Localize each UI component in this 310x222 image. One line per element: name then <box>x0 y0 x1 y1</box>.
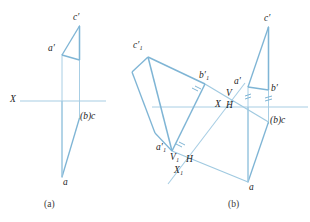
panel-b-label-axis-v1-text: V₁ <box>170 152 179 162</box>
panel-b-label-b1-prime: b′₁ <box>199 71 209 81</box>
panel-b-front-edge-ab <box>248 87 269 90</box>
panel-b-label-a-prime: a′ <box>234 77 241 87</box>
panel-b-label-a: a <box>249 183 254 193</box>
panel-a-label-bc: (b)c <box>80 112 95 122</box>
panel-b-label-bc: (b)c <box>270 116 285 126</box>
panel-b-label-axis-x1: X₁ <box>174 166 183 176</box>
panel-b-caption: (b) <box>228 200 239 210</box>
panel-a-geometry <box>20 25 106 178</box>
panel-b-label-c1-prime-text: c′₁ <box>133 40 143 50</box>
panel-b-label-a1-prime: a′₁ <box>156 143 166 153</box>
panel-b-aux-edge-a1b1 <box>172 84 205 151</box>
figure-canvas <box>0 0 310 222</box>
panel-b-label-c-prime: c′ <box>264 14 270 24</box>
panel-a-top-edge-a-bc <box>62 118 80 177</box>
panel-b-front-edge-ac <box>248 27 269 87</box>
descriptive-geometry-figure: c′ a′ X (b)c a (a) c′₁ b′₁ a′₁ c′ a′ b′ … <box>0 0 310 222</box>
panel-a-label-a-prime: a′ <box>48 44 55 54</box>
panel-b-ray-a-to-aux <box>172 151 248 182</box>
panel-b-label-c1-prime: c′₁ <box>133 41 143 51</box>
panel-b-top-edge-a-bc <box>248 122 269 182</box>
tick-mark <box>195 86 201 89</box>
panel-a-caption: (a) <box>44 200 55 210</box>
panel-b-label-axis-x: X <box>215 100 221 110</box>
panel-a-label-axis-x: X <box>10 95 16 105</box>
panel-b-aux-edge-a1c1 <box>148 57 172 151</box>
panel-b-label-axis-h1: H <box>186 155 193 165</box>
panel-a-front-edge-ac <box>62 26 80 55</box>
panel-b-label-a1-prime-text: a′₁ <box>156 142 166 152</box>
panel-a-front-edge-ab <box>62 55 80 60</box>
panel-b-label-b1-prime-text: b′₁ <box>199 70 209 80</box>
tick-mark <box>176 144 182 147</box>
panel-b-aux-edge-c1-extension <box>132 57 148 72</box>
panel-b-label-axis-h: H <box>226 101 233 111</box>
tick-mark <box>192 88 198 91</box>
panel-a-label-c-prime: c′ <box>73 13 79 23</box>
panel-a-label-a: a <box>63 178 68 188</box>
panel-b-aux-outer-left <box>132 72 155 133</box>
panel-b-label-b-prime: b′ <box>271 84 278 94</box>
panel-b-label-axis-x1-text: X₁ <box>174 165 183 175</box>
panel-b-label-axis-v1: V₁ <box>170 153 179 163</box>
tick-mark <box>179 142 185 145</box>
panel-b-label-axis-v: V <box>226 89 232 99</box>
panel-b-aux-edge-c1b1 <box>148 57 205 84</box>
